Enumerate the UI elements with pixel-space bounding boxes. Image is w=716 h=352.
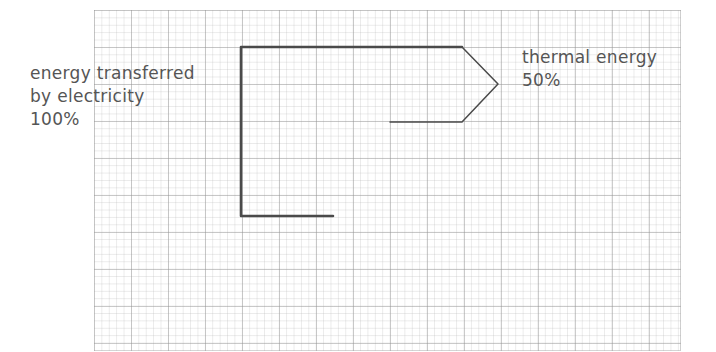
- input-arrow-outline: [241, 47, 462, 216]
- input-energy-label: energy transferred by electricity 100%: [30, 62, 195, 131]
- output-label-percent: 50%: [522, 69, 657, 92]
- input-label-line2: by electricity: [30, 85, 195, 108]
- thermal-output-arrowhead: [390, 47, 498, 122]
- output-label-line1: thermal energy: [522, 46, 657, 69]
- input-label-percent: 100%: [30, 108, 195, 131]
- input-label-line1: energy transferred: [30, 62, 195, 85]
- thermal-energy-label: thermal energy 50%: [522, 46, 657, 92]
